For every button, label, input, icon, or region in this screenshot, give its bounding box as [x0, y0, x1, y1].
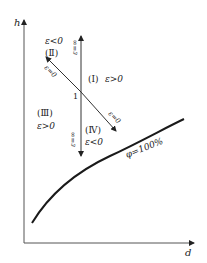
x-axis-label: d	[185, 247, 191, 258]
vertical-up-label: ε=∞	[71, 39, 79, 55]
svg-text:ε<0: ε<0	[85, 137, 103, 147]
svg-text:(Ⅳ): (Ⅳ)	[85, 125, 101, 135]
saturation-curve	[32, 119, 184, 223]
region-IV: (Ⅳ) ε<0	[85, 125, 103, 147]
svg-text:ε<0: ε<0	[45, 36, 63, 46]
diagonal-up-label: ε=0	[43, 64, 59, 80]
region-II: ε<0 (Ⅱ)	[45, 36, 63, 58]
hd-diagram: h d 1 ε=∞ ε=∞ ε=0 ε=0 ε<0 (Ⅱ) (Ⅰ) ε>0 (Ⅲ…	[0, 0, 207, 263]
svg-text:(Ⅱ): (Ⅱ)	[45, 48, 58, 58]
region-I: (Ⅰ) ε>0	[88, 74, 123, 84]
point-1-label: 1	[73, 92, 78, 101]
y-axis-label: h	[14, 17, 20, 28]
region-III: (Ⅲ) ε>0	[37, 108, 55, 131]
svg-text:ε>0: ε>0	[105, 74, 123, 84]
svg-text:ε>0: ε>0	[37, 121, 55, 131]
svg-text:(Ⅰ): (Ⅰ)	[88, 74, 99, 84]
svg-text:(Ⅲ): (Ⅲ)	[37, 108, 53, 118]
vertical-down-label: ε=∞	[69, 131, 77, 147]
